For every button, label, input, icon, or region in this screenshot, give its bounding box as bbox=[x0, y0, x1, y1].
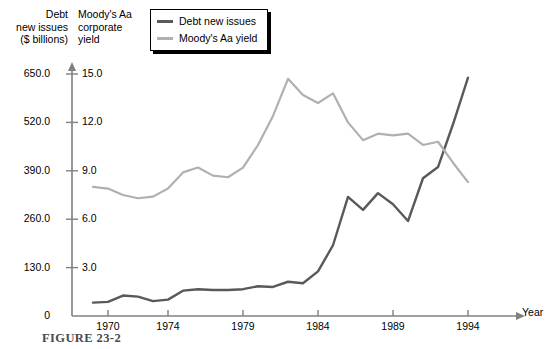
y-axis-left-tick-label: 520.0 bbox=[0, 115, 50, 127]
y-axis-left-tick-label: 260.0 bbox=[0, 212, 50, 224]
figure-container: Debt new issues ($ billions) Moody's Aa … bbox=[0, 0, 554, 349]
series-line-moody-s-aa-yield bbox=[93, 79, 468, 198]
y-axis-left-tick-label: 0 bbox=[0, 309, 50, 321]
y-axis-right-tick-label: 6.0 bbox=[82, 212, 97, 224]
y-axis-right-tick-label: 12.0 bbox=[82, 115, 102, 127]
x-axis-tick-label: 1984 bbox=[298, 320, 338, 332]
x-axis-tick-label: 1994 bbox=[448, 320, 488, 332]
y-axis-left-tick-label: 130.0 bbox=[0, 261, 50, 273]
x-axis-tick-label: 1974 bbox=[148, 320, 188, 332]
y-axis-right-tick-label: 9.0 bbox=[82, 164, 97, 176]
y-axis-left-tick-label: 650.0 bbox=[0, 67, 50, 79]
series-line-debt-new-issues bbox=[93, 78, 468, 303]
y-axis-right-tick-label: 15.0 bbox=[82, 67, 102, 79]
x-axis-title: Year bbox=[522, 306, 543, 318]
y-axis-right-tick-label: 3.0 bbox=[82, 261, 97, 273]
y-axis-left-tick-label: 390.0 bbox=[0, 164, 50, 176]
x-axis-tick-label: 1979 bbox=[223, 320, 263, 332]
x-axis-tick-label: 1989 bbox=[373, 320, 413, 332]
data-series-group bbox=[93, 78, 468, 303]
figure-caption: FIGURE 23-2 bbox=[42, 331, 121, 346]
